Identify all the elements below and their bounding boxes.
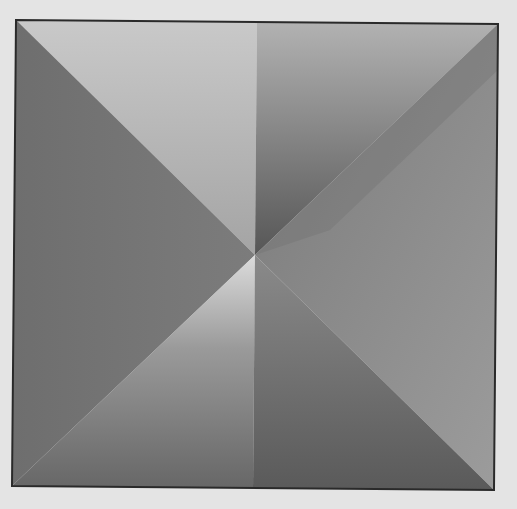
pyramid-diagram: [0, 0, 517, 509]
figure-canvas: [0, 0, 517, 509]
